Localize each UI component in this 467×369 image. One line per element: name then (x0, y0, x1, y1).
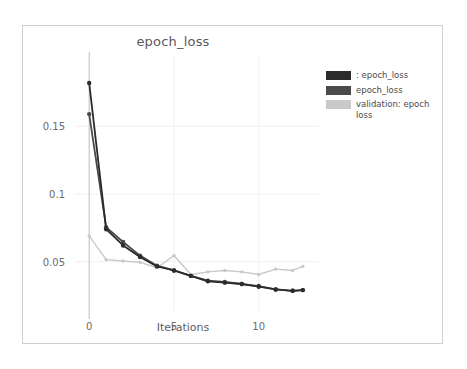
legend-swatch-icon (326, 71, 351, 80)
series-data-point (223, 269, 226, 272)
series-data-point (104, 258, 107, 261)
series-data-point (257, 273, 260, 276)
series-data-point (155, 264, 159, 268)
series-data-point (172, 268, 176, 272)
x-axis-label: Iterations (83, 321, 283, 334)
series-data-point (87, 234, 90, 237)
series-data-point (138, 255, 142, 259)
series-data-point (189, 274, 193, 278)
series-data-point (274, 267, 277, 270)
series-line (89, 114, 303, 291)
series-data-point (301, 288, 305, 292)
legend-item-label: validation: epoch loss (356, 99, 438, 120)
series-data-point (273, 287, 277, 291)
legend-item[interactable]: epoch_loss (326, 85, 438, 96)
chart-legend: : epoch_loss epoch_loss validation: epoc… (326, 70, 438, 125)
series-data-point (87, 81, 91, 85)
series-data-point (206, 279, 210, 283)
series-data-point (121, 243, 125, 247)
series-data-point (240, 282, 244, 286)
series-data-point (121, 259, 124, 262)
series-line (89, 83, 303, 291)
series-data-point (104, 227, 108, 231)
legend-item-label: epoch_loss (356, 85, 438, 96)
series-data-point (223, 280, 227, 284)
series-data-point (240, 270, 243, 273)
legend-item-label: : epoch_loss (356, 70, 438, 81)
series-data-point (172, 254, 175, 257)
series-data-point (290, 289, 294, 293)
y-axis-tick-label: 0.1 (49, 189, 65, 200)
y-axis-tick-label: 0.15 (43, 121, 65, 132)
series-data-point (138, 261, 141, 264)
chart-card: epoch_loss 0.050.10.150510 : epoch_loss … (22, 25, 443, 344)
series-data-point (87, 112, 91, 116)
series-data-point (301, 265, 304, 268)
y-axis-tick-label: 0.05 (43, 257, 65, 268)
legend-item[interactable]: : epoch_loss (326, 70, 438, 81)
series-data-point (257, 285, 261, 289)
legend-item[interactable]: validation: epoch loss (326, 99, 438, 120)
legend-swatch-icon (326, 86, 351, 95)
series-data-point (206, 270, 209, 273)
legend-swatch-icon (326, 100, 351, 109)
series-data-point (291, 269, 294, 272)
